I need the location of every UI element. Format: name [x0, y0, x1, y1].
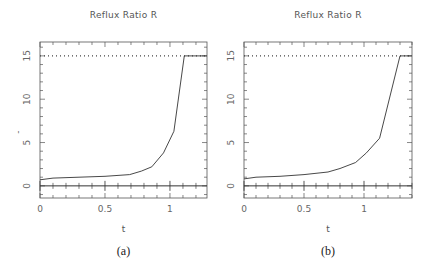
chart-title: Reflux Ratio R — [90, 10, 157, 20]
panel-caption: (b) — [321, 244, 335, 258]
x-tick-label: 0 — [37, 204, 43, 214]
x-tick-label: 1 — [167, 204, 173, 214]
x-tick-label: 0.5 — [297, 204, 311, 214]
panel-b: Reflux Ratio R00.51051015t(b) — [226, 10, 412, 258]
x-axis-label: t — [326, 224, 330, 234]
panel-caption: (a) — [117, 244, 130, 258]
y-tick-label: 0 — [226, 183, 236, 189]
chart-title: Reflux Ratio R — [294, 10, 361, 20]
y-tick-label: 10 — [22, 93, 32, 105]
y-tick-label: 15 — [226, 50, 236, 61]
x-tick-label: 0 — [241, 204, 247, 214]
x-axis-label: t — [122, 224, 126, 234]
y-tick-label: 5 — [226, 140, 236, 146]
y-tick-label: 5 — [22, 140, 32, 146]
plot-frame — [244, 42, 412, 198]
y-axis-label: - — [13, 131, 23, 134]
panel-a: Reflux Ratio R00.51051015-t(a) — [13, 10, 207, 258]
y-tick-label: 0 — [22, 183, 32, 189]
x-tick-label: 0.5 — [98, 204, 112, 214]
y-tick-label: 10 — [226, 93, 236, 105]
figure: Reflux Ratio R00.51051015-t(a)Reflux Rat… — [0, 0, 430, 276]
x-tick-label: 1 — [361, 204, 367, 214]
series-line — [244, 56, 412, 179]
y-tick-label: 15 — [22, 50, 32, 61]
series-line — [40, 56, 207, 180]
